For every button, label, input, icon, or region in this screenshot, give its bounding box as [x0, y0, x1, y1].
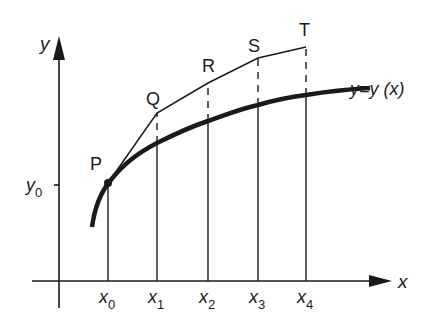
tick-label-x2: x2	[198, 287, 215, 312]
euler-method-diagram: y x y0 P Q R S T y=y (x) x0 x1 x2 x3 x4	[0, 0, 440, 330]
y-axis-label: y	[38, 33, 51, 54]
tick-label-x1: x1	[147, 287, 164, 312]
point-p-dot	[104, 179, 112, 187]
tick-label-x3: x3	[248, 287, 265, 312]
y0-label: y0	[24, 175, 42, 200]
point-label-p: P	[90, 154, 102, 174]
tick-label-x0: x0	[98, 287, 115, 312]
x-axis-label: x	[397, 271, 409, 292]
point-label-r: R	[202, 56, 215, 76]
x-axis-arrow-icon	[369, 275, 392, 287]
curve-label: y=y (x)	[348, 79, 405, 99]
point-label-q: Q	[146, 89, 160, 109]
tick-label-x4: x4	[296, 287, 313, 312]
solution-curve	[92, 88, 370, 227]
point-label-t: T	[299, 20, 310, 40]
y-axis-arrow-icon	[53, 36, 65, 60]
point-label-s: S	[248, 36, 260, 56]
